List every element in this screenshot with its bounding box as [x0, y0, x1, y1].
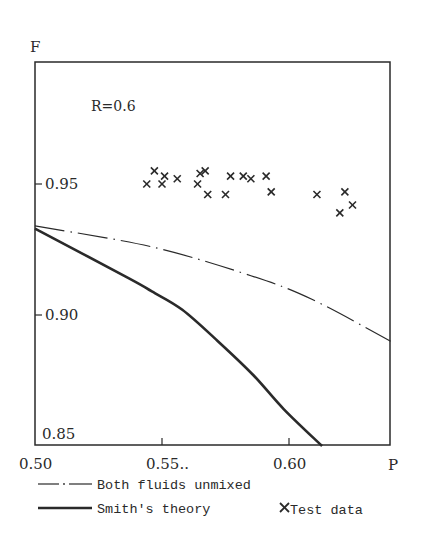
- plot-frame: [35, 62, 390, 445]
- test-data-point: [349, 201, 356, 208]
- chart-figure: F P R=0.6 0.500.55..0.600.950.900.85 Bot…: [0, 0, 421, 543]
- test-data-point: [194, 181, 201, 188]
- legend-dashdot-dot: [63, 483, 65, 485]
- test-data-point: [174, 175, 181, 182]
- test-data-point: [313, 191, 320, 198]
- test-data-point: [240, 173, 247, 180]
- test-data-point: [227, 173, 234, 180]
- test-data-point: [159, 181, 166, 188]
- test-data-point: [161, 173, 168, 180]
- x-marker-icon: [280, 503, 289, 512]
- test-data-point: [268, 188, 275, 195]
- legend: Both fluids unmixed Smith's theory Test …: [38, 478, 363, 518]
- legend-item-test-data: Test data: [280, 503, 363, 518]
- test-data-point: [336, 209, 343, 216]
- legend-item-smith: Smith's theory: [38, 502, 210, 517]
- axis-ticks: 0.500.55..0.600.950.900.85: [19, 175, 306, 473]
- legend-item-unmixed: Both fluids unmixed: [38, 478, 251, 493]
- y-axis-label: F: [30, 38, 40, 56]
- unmixed-curve: [35, 226, 391, 341]
- y-tick-label: 0.90: [45, 306, 78, 324]
- x-tick-label: 0.60: [273, 455, 306, 473]
- smith-theory-curve: [35, 229, 322, 446]
- legend-label-test-data: Test data: [290, 503, 363, 518]
- legend-label-unmixed: Both fluids unmixed: [97, 478, 251, 493]
- test-data-point: [247, 175, 254, 182]
- y-tick-label: 0.95: [45, 175, 78, 193]
- test-data-point: [151, 167, 158, 174]
- test-data-markers: [143, 167, 356, 216]
- test-data-point: [263, 173, 270, 180]
- x-tick-label: 0.50: [19, 455, 52, 473]
- test-data-point: [222, 191, 229, 198]
- series-lines: [35, 226, 391, 446]
- test-data-point: [204, 191, 211, 198]
- test-data-point: [143, 181, 150, 188]
- legend-label-smith: Smith's theory: [97, 502, 210, 517]
- test-data-point: [341, 188, 348, 195]
- x-tick-label: 0.55..: [146, 455, 189, 473]
- x-axis-label: P: [388, 456, 398, 474]
- y-tick-label: 0.85: [42, 425, 75, 443]
- r-annotation: R=0.6: [91, 98, 136, 114]
